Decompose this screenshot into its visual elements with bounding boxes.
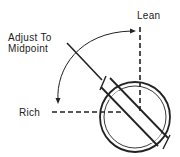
diagram-graphic [0,0,180,157]
arrowhead-right-icon [130,29,136,34]
arrowhead-down-icon [56,98,61,104]
rich-label: Rich [19,107,40,118]
mixture-adjustment-diagram: Lean Adjust To Midpoint Rich [0,0,180,157]
midpoint-slot-line [67,43,102,80]
screw-head-icon [98,76,173,155]
lean-label: Lean [137,10,160,21]
adjust-label-line2: Midpoint [8,43,52,54]
adjust-label-line1: Adjust To [8,32,52,43]
adjust-to-midpoint-label: Adjust To Midpoint [8,32,52,54]
